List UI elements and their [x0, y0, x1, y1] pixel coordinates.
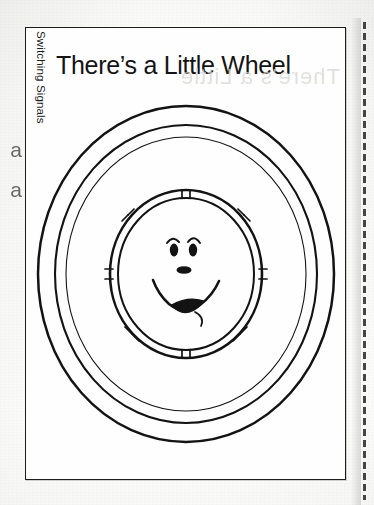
outer-tire-inner-edge	[55, 125, 317, 423]
right-brow	[188, 238, 200, 243]
facing-page-bleed-text: a a	[0, 130, 22, 250]
right-eye	[189, 244, 197, 257]
sidewall-groove	[66, 137, 306, 411]
rim-outer-edge	[110, 190, 262, 358]
scanned-page: a a Switching Signals There’s a Little W…	[0, 0, 374, 505]
nose	[177, 266, 192, 274]
rim-segment-ticks	[105, 190, 267, 358]
page-edge-shadow	[351, 18, 361, 505]
rim-inner-edge	[118, 198, 254, 350]
left-brow	[167, 239, 179, 243]
page-title: There’s a Little Wheel	[56, 51, 336, 80]
left-eye	[170, 244, 178, 257]
outer-tire-edge	[38, 106, 334, 442]
mouth-interior	[172, 299, 203, 312]
smiling-face	[153, 238, 219, 326]
tongue	[195, 312, 202, 326]
wheel-illustration	[27, 98, 345, 450]
wheel-illustration-svg	[27, 98, 345, 450]
perforation-tear-line	[363, 22, 366, 500]
